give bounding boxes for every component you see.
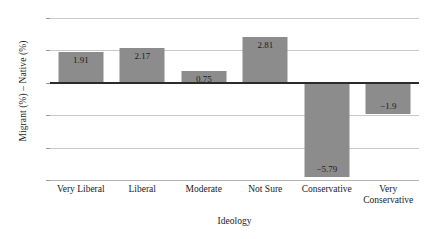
x-axis-title: Ideology xyxy=(50,216,419,226)
bar-series: 1.912.170.752.81−5.79−1.9 xyxy=(50,18,419,180)
x-tick-label: Very Liberal xyxy=(50,184,112,195)
bar[interactable]: 1.91 xyxy=(58,52,103,83)
x-tick-label: Very Conservative xyxy=(358,184,420,206)
bar[interactable]: −1.9 xyxy=(366,83,411,114)
bar-slot: 0.75 xyxy=(173,18,235,180)
x-axis-ticks: Very LiberalLiberalModerateNot SureConse… xyxy=(50,184,419,214)
x-tick-label: Liberal xyxy=(112,184,174,195)
y-tick-mark--4 xyxy=(46,148,50,149)
plot-area: 1.912.170.752.81−5.79−1.9 xyxy=(50,18,419,180)
bar-chart: Migrant (%) – Native (%) 1.912.170.752.8… xyxy=(0,0,429,239)
zero-line xyxy=(50,82,419,84)
bar-value-label: −5.79 xyxy=(304,164,349,174)
bar-value-label: −1.9 xyxy=(366,101,411,111)
bar-slot: 2.81 xyxy=(235,18,297,180)
y-tick-mark--2 xyxy=(46,115,50,116)
x-tick-label: Conservative xyxy=(296,184,358,195)
y-tick-mark-4 xyxy=(46,18,50,19)
x-tick-label: Moderate xyxy=(173,184,235,195)
y-axis-title: Migrant (%) – Native (%) xyxy=(18,6,28,176)
bar[interactable]: −5.79 xyxy=(304,83,349,177)
bar-slot: 2.17 xyxy=(112,18,174,180)
bar[interactable]: 2.17 xyxy=(120,48,165,83)
y-tick-mark--6 xyxy=(46,180,50,181)
bar-slot: −5.79 xyxy=(296,18,358,180)
bar-value-label: 1.91 xyxy=(58,55,103,65)
bar[interactable]: 2.81 xyxy=(243,37,288,83)
gridline--6 xyxy=(50,180,419,181)
y-tick-mark-2 xyxy=(46,50,50,51)
bar-slot: 1.91 xyxy=(50,18,112,180)
bar-slot: −1.9 xyxy=(358,18,420,180)
bar-value-label: 2.81 xyxy=(243,40,288,50)
x-tick-label: Not Sure xyxy=(235,184,297,195)
bar-value-label: 2.17 xyxy=(120,51,165,61)
